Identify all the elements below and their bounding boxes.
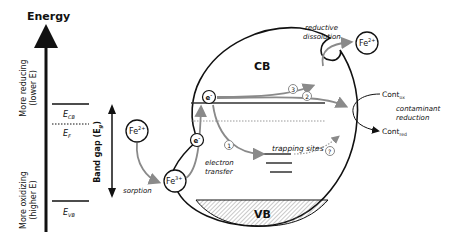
evb-label: EVB — [63, 208, 75, 218]
contaminant-label-1: contaminant — [396, 105, 441, 113]
reductive-label-1: reductive — [305, 24, 338, 32]
reductive-dissolution-arrow — [322, 42, 350, 66]
vb-label: VB — [254, 208, 271, 221]
svg-text:trapping sites: trapping sites — [272, 144, 324, 153]
fe2-right-species: Fe2+ — [356, 32, 378, 54]
pathway-1-arrow — [213, 105, 262, 154]
fe3-species: Fe3+ — [164, 170, 186, 192]
lower-e-label: (lower E) — [29, 70, 38, 106]
cb-label: CB — [254, 60, 270, 73]
electron-gap: e- — [191, 134, 204, 147]
trapping-sites: trapping sites — [263, 144, 324, 172]
svg-text:1: 1 — [227, 142, 231, 149]
sorption-arrow — [137, 143, 158, 182]
reductive-label-2: dissolution — [303, 33, 341, 41]
svg-text:3: 3 — [291, 86, 295, 93]
ef-label: EF — [63, 129, 71, 139]
electron-cb: e- — [203, 91, 216, 104]
electron-transfer-label-1: electron — [205, 159, 234, 167]
higher-e-label: (higher E) — [29, 180, 38, 220]
energy-levels: ECB EF EVB — [52, 104, 89, 218]
cont-red-label: Contred — [382, 127, 407, 137]
band-gap: Band gap (Eg) — [93, 104, 116, 198]
more-oxidizing-label: More oxidizing — [19, 171, 28, 229]
ecb-label: ECB — [63, 110, 76, 120]
pathway-unknown-badge: ? — [326, 147, 335, 156]
energy-title: Energy — [27, 10, 70, 23]
sorption-label: sorption — [123, 187, 152, 195]
band-diagram: Energy More reducing (lower E) More oxid… — [0, 0, 459, 243]
electron-transfer-label-2: transfer — [205, 168, 234, 176]
more-reducing-label: More reducing — [19, 59, 28, 116]
band-gap-label: Band gap (Eg) — [93, 121, 104, 183]
fe2-left-species: Fe2+ — [126, 120, 148, 142]
pathway-2-badge: 2 — [303, 92, 312, 101]
svg-text:?: ? — [328, 148, 331, 155]
pathway-1-badge: 1 — [225, 141, 234, 150]
contaminant-label-2: reduction — [396, 114, 429, 122]
pathway-2-arrow — [217, 97, 345, 106]
energy-axis: Energy More reducing (lower E) More oxid… — [19, 10, 70, 232]
cont-ox-label: Contox — [382, 90, 405, 100]
pathway-3-badge: 3 — [289, 85, 298, 94]
svg-text:2: 2 — [305, 93, 309, 100]
